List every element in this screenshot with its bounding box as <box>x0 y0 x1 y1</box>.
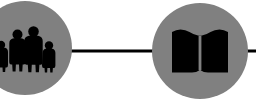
book-node[interactable] <box>152 3 248 99</box>
people-node[interactable] <box>0 1 72 95</box>
open-book-icon <box>172 29 228 72</box>
connector-people-to-book <box>66 50 155 53</box>
diagram-canvas: Community and Education Link Diagram <box>0 0 256 106</box>
diagram-svg <box>0 0 256 106</box>
